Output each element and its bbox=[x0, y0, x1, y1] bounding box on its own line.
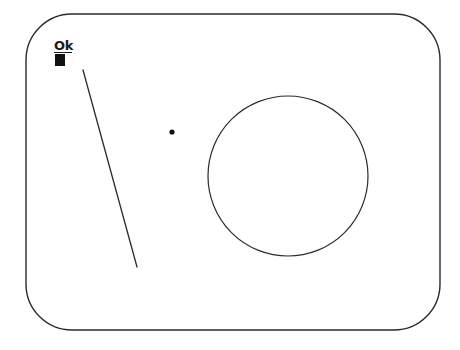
circle-shape bbox=[208, 96, 368, 256]
rounded-rectangle-frame bbox=[26, 14, 440, 330]
ok-label-group: Ok bbox=[54, 39, 84, 71]
ok-label: Ok bbox=[54, 39, 73, 52]
drawing-canvas[interactable]: Ok bbox=[0, 0, 460, 350]
dot-marker bbox=[169, 129, 174, 134]
filled-square-marker bbox=[55, 54, 65, 66]
diagonal-line bbox=[83, 70, 137, 267]
